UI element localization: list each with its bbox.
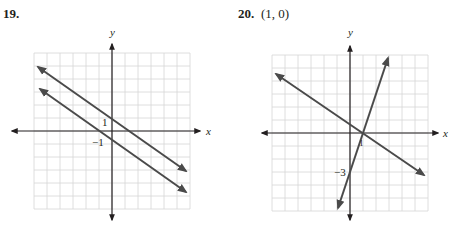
x-axis-label-19: x [205, 125, 211, 137]
graph-19: y x 1 −1 [12, 26, 211, 220]
graphs-canvas: y x 1 −1 y x 1 −3 [0, 0, 466, 229]
y-axis-label-19: y [109, 26, 115, 38]
y-axis-label-20: y [347, 26, 353, 38]
tick-label-19-1: 1 [102, 116, 108, 128]
tick-label-19-neg1: −1 [92, 136, 104, 148]
graph-20: y x 1 −3 [262, 26, 448, 220]
tick-label-20-1: 1 [359, 138, 364, 148]
x-axis-label-20: x [442, 127, 448, 139]
tick-label-20-neg3: −3 [334, 166, 346, 178]
